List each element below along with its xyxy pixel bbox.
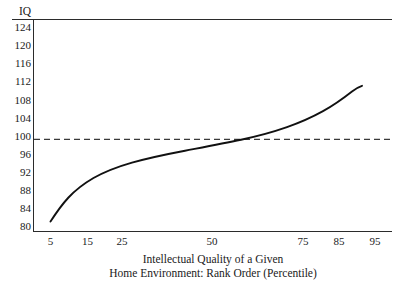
y-tick-label: 96 <box>20 148 32 160</box>
x-tick-label: 85 <box>334 235 346 247</box>
y-tick-label: 112 <box>15 75 31 87</box>
y-tick-label: 104 <box>15 112 32 124</box>
x-tick-label: 5 <box>48 235 54 247</box>
y-tick-label: 88 <box>20 184 32 196</box>
y-tick-label: 124 <box>15 21 32 33</box>
chart-figure: IQ 124 120 116 112 108 104 100 96 92 88 … <box>0 0 403 284</box>
x-axis-title-line1: Intellectual Quality of a Given <box>143 253 284 266</box>
y-tick-label: 116 <box>15 57 32 69</box>
y-tick-label: 80 <box>20 220 32 232</box>
x-axis-title-line2: Home Environment: Rank Order (Percentile… <box>109 267 317 280</box>
y-tick-label: 100 <box>15 130 32 142</box>
x-tick-label: 75 <box>298 235 310 247</box>
x-tick-label: 15 <box>82 235 94 247</box>
y-tick-label: 84 <box>20 202 32 214</box>
x-tick-label: 95 <box>370 235 382 247</box>
y-axis-unit-label: IQ <box>19 5 32 17</box>
x-axis-tick-labels: 5 15 25 50 75 85 95 <box>48 235 381 247</box>
y-tick-label: 92 <box>20 166 31 178</box>
y-tick-label: 108 <box>15 94 32 106</box>
y-axis-tick-labels: 124 120 116 112 108 104 100 96 92 88 84 … <box>15 21 32 232</box>
y-tick-label: 120 <box>15 39 32 51</box>
x-tick-label: 25 <box>117 235 129 247</box>
x-tick-label: 50 <box>207 235 219 247</box>
iq-curve <box>51 86 363 222</box>
iq-home-environment-line-chart: IQ 124 120 116 112 108 104 100 96 92 88 … <box>0 0 403 284</box>
